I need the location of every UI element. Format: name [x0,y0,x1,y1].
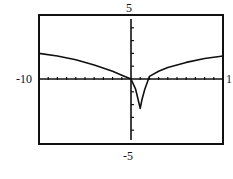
xmin-label: -10 [16,73,32,85]
graph-window [0,0,233,179]
ymax-label: 5 [126,2,132,14]
ymin-label: -5 [123,150,133,162]
xmax-label: 1 [226,73,232,85]
